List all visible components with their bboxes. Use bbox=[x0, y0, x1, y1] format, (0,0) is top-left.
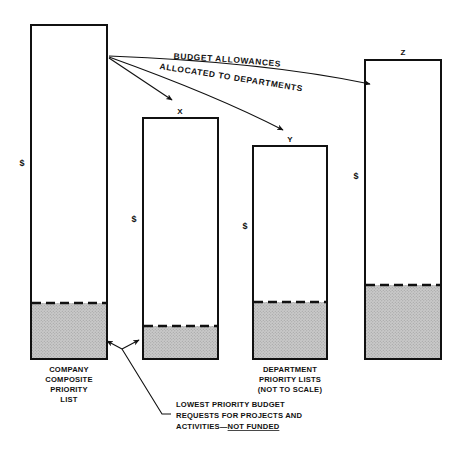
caption-line-2: PRIORITY LISTS bbox=[259, 375, 321, 384]
bar-y: Y $ bbox=[242, 135, 327, 359]
caption-line-2: COMPOSITE bbox=[45, 375, 92, 384]
bar-y-unfunded-fill bbox=[254, 302, 326, 358]
callout-line-2: REQUESTS FOR PROJECTS AND bbox=[176, 411, 303, 420]
bar-x-top-label: X bbox=[177, 107, 183, 116]
bar-z-top-label: Z bbox=[401, 48, 406, 57]
caption-line-3: (NOT TO SCALE) bbox=[258, 385, 323, 394]
callout-line-3: ACTIVITIES—NOT FUNDED bbox=[176, 422, 280, 431]
caption-line-1: COMPANY bbox=[49, 365, 89, 374]
callout-not-funded-emphasis: NOT FUNDED bbox=[228, 422, 280, 431]
caption-line-3: PRIORITY bbox=[50, 385, 87, 394]
bar-company-dollar-symbol: $ bbox=[19, 158, 24, 168]
bar-z-unfunded-fill bbox=[366, 285, 440, 358]
bar-z: Z $ bbox=[353, 48, 441, 359]
caption-line-1: DEPARTMENT bbox=[263, 365, 317, 374]
bar-z-dollar-symbol: $ bbox=[353, 171, 358, 181]
callout-line-1: LOWEST PRIORITY BUDGET bbox=[176, 400, 285, 409]
bar-x-dollar-symbol: $ bbox=[131, 214, 136, 224]
bar-y-dollar-symbol: $ bbox=[242, 221, 247, 231]
callout-line-3-prefix: ACTIVITIES— bbox=[176, 422, 228, 431]
caption-line-4: LIST bbox=[60, 395, 77, 404]
bar-y-caption: DEPARTMENT PRIORITY LISTS (NOT TO SCALE) bbox=[258, 365, 323, 394]
bar-x: X $ bbox=[131, 107, 218, 359]
bar-company: $ bbox=[19, 25, 107, 359]
bar-y-top-label: Y bbox=[287, 135, 293, 144]
bar-x-unfunded-fill bbox=[144, 326, 217, 358]
bar-company-unfunded-fill bbox=[32, 303, 106, 358]
budget-allocation-diagram: $ COMPANY COMPOSITE PRIORITY LIST X $ Y … bbox=[0, 0, 463, 463]
bar-x-outline bbox=[143, 118, 218, 359]
